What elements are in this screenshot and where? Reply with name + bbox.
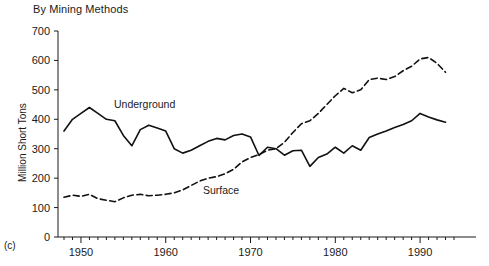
x-tick-label: 1990	[408, 246, 432, 258]
data-series-group	[64, 57, 446, 201]
annotation-underground: Underground	[114, 98, 175, 110]
y-tick-label: 100	[32, 202, 50, 214]
y-tick-label: 300	[32, 143, 50, 155]
y-tick-label: 0	[44, 231, 50, 243]
y-tick-label: 500	[32, 84, 50, 96]
x-tick-label: 1960	[153, 246, 177, 258]
chart-page: By Mining Methods (c) Million Short Tons…	[0, 0, 489, 266]
y-tick-label: 200	[32, 172, 50, 184]
x-tick-label: 1950	[69, 246, 93, 258]
y-tick-label: 400	[32, 113, 50, 125]
series-line-underground	[64, 108, 446, 167]
y-tick-label: 700	[32, 25, 50, 37]
x-tick-label: 1980	[323, 246, 347, 258]
chart-plot: 0100200300400500600700 19501960197019801…	[0, 0, 489, 266]
x-axis-ticks: 19501960197019801990	[64, 237, 454, 258]
y-tick-label: 600	[32, 54, 50, 66]
x-tick-label: 1970	[238, 246, 262, 258]
y-axis-ticks: 0100200300400500600700	[32, 25, 58, 243]
annotation-surface: Surface	[203, 184, 239, 196]
